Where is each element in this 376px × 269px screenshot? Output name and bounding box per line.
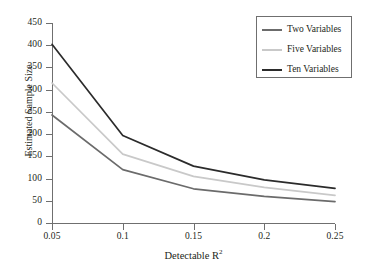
x-tick-mark: [194, 224, 195, 230]
x-tick-mark: [335, 224, 336, 230]
y-tick-label: 50: [12, 196, 42, 206]
x-tick-mark: [123, 224, 124, 230]
y-axis-title: Estimated Sample Size: [23, 31, 34, 191]
y-tick-mark: [46, 45, 52, 46]
x-axis-title-base: Detectable R: [164, 250, 219, 261]
legend-item: Five Variables: [262, 44, 341, 56]
legend: Two VariablesFive VariablesTen Variables: [256, 16, 352, 78]
legend-label: Two Variables: [287, 25, 341, 35]
x-tick-label: 0.15: [174, 232, 214, 242]
x-tick-label: 0.2: [244, 232, 284, 242]
legend-item: Two Variables: [262, 24, 341, 36]
y-tick-mark: [46, 156, 52, 157]
series-line: [52, 115, 335, 202]
legend-swatch-icon: [262, 49, 282, 51]
y-tick-label: 450: [12, 18, 42, 28]
x-tick-mark: [52, 224, 53, 230]
legend-swatch-icon: [262, 69, 282, 71]
y-tick-mark: [46, 112, 52, 113]
x-tick-label: 0.05: [32, 232, 72, 242]
x-tick-label: 0.25: [315, 232, 355, 242]
y-tick-mark: [46, 134, 52, 135]
y-tick-mark: [46, 23, 52, 24]
y-tick-label: 0: [12, 218, 42, 228]
legend-label: Five Variables: [287, 45, 341, 55]
y-tick-mark: [46, 179, 52, 180]
y-tick-mark: [46, 201, 52, 202]
x-tick-mark: [264, 224, 265, 230]
legend-swatch-icon: [262, 29, 282, 31]
x-axis-title-superscript: 2: [219, 248, 223, 256]
series-line: [52, 83, 335, 195]
legend-label: Ten Variables: [287, 65, 339, 75]
y-axis-line: [52, 23, 53, 224]
legend-item: Ten Variables: [262, 64, 339, 76]
line-chart: 050100150200250300350400450 0.050.10.150…: [0, 0, 376, 269]
x-axis-title: Detectable R2: [52, 248, 335, 261]
x-tick-label: 0.1: [103, 232, 143, 242]
y-tick-mark: [46, 90, 52, 91]
y-tick-mark: [46, 67, 52, 68]
